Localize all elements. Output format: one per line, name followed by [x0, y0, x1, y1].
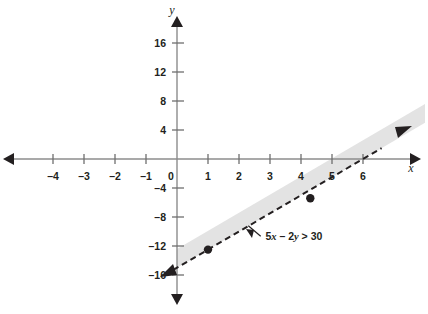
y-tick-label: 12 [154, 66, 166, 78]
x-tick-label: –1 [140, 170, 152, 182]
y-axis-label: y [168, 3, 175, 17]
y-tick-label: –4 [154, 182, 166, 194]
y-tick-label: –12 [148, 240, 166, 252]
y-axis-bottom-arrow [171, 294, 183, 305]
graph-figure: –4 –3 –2 –1 0 1 2 3 4 5 6 16 12 8 4 –4 –… [0, 0, 428, 314]
y-tick-label: 16 [154, 37, 166, 49]
x-tick-label: –2 [109, 170, 121, 182]
y-tick-label: 4 [160, 124, 166, 136]
data-point [204, 245, 212, 253]
inequality-label-part: – 2 [276, 230, 294, 242]
y-axis-top-arrow [171, 16, 183, 27]
annotation-arrow-head [246, 229, 254, 238]
x-tick-label: –4 [47, 170, 59, 182]
x-tick-label: 3 [267, 170, 273, 182]
x-tick-label: 2 [236, 170, 242, 182]
coordinate-plane-svg: –4 –3 –2 –1 0 1 2 3 4 5 6 16 12 8 4 –4 –… [0, 0, 428, 314]
x-tick-label: 1 [205, 170, 211, 182]
annotation-leader-line [246, 226, 261, 238]
x-axis-label: x [407, 161, 414, 175]
shaded-solution-region [177, 104, 425, 268]
x-tick-label: 6 [360, 170, 366, 182]
x-tick-label: 4 [298, 170, 304, 182]
y-tick-label: –8 [154, 211, 166, 223]
x-tick-label-origin: 0 [168, 170, 174, 182]
y-tick-label: 8 [160, 95, 166, 107]
boundary-line-right-arrow [395, 126, 412, 138]
x-tick-label: –3 [78, 170, 90, 182]
data-point [306, 194, 314, 202]
inequality-label: 5x – 2y > 30 [265, 230, 322, 242]
inequality-label-part: > 30 [299, 230, 323, 242]
x-axis-left-arrow [3, 153, 14, 165]
